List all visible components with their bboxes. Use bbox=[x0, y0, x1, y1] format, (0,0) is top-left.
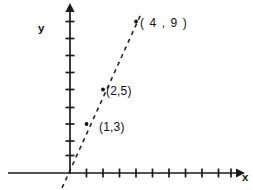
graph-screenshot: y x (1,3) (2,5) ( 4 , 9 ) bbox=[0, 0, 253, 190]
data-point-2-5 bbox=[101, 88, 105, 92]
data-point-4-9 bbox=[134, 20, 138, 24]
x-axis-label: x bbox=[242, 171, 249, 183]
y-axis-label: y bbox=[38, 22, 45, 34]
point-label-4-9: ( 4 , 9 ) bbox=[140, 16, 188, 30]
point-label-1-3: (1,3) bbox=[99, 120, 125, 134]
point-label-2-5: (2,5) bbox=[106, 84, 132, 98]
dashed-trend-line bbox=[62, 14, 141, 188]
y-axis-arrow-icon bbox=[65, 3, 74, 12]
data-point-1-3 bbox=[85, 122, 89, 126]
coordinate-plot: y x (1,3) (2,5) ( 4 , 9 ) bbox=[0, 0, 253, 190]
